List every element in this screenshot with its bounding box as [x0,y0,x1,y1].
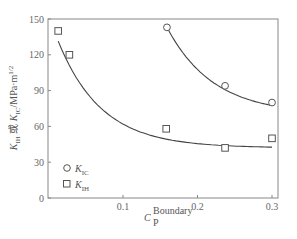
y-tick-label: 120 [29,49,44,60]
legend-item-kic: KIC [64,163,89,177]
y-tick-label: 30 [34,157,44,168]
square-marker-icon [163,125,170,132]
chart: 0306090120150 0.10.20.3 KIH 或 KIC/MPa·m1… [0,0,297,239]
svg-text:Boundary: Boundary [153,205,192,216]
legend-item-kih: KIH [64,179,90,193]
svg-text:C: C [144,212,151,223]
svg-text:KIC: KIC [74,163,89,177]
circle-marker-icon [64,165,71,172]
svg-text:P: P [153,217,159,228]
square-marker-icon [64,181,71,188]
x-tick-label: 0.2 [191,201,204,212]
y-axis-label: KIH 或 KIC/MPa·m1/2 [7,65,22,151]
square-marker-icon [222,145,229,152]
x-tick-label: 0.1 [117,201,130,212]
legend: KIC KIH [64,163,90,193]
square-marker-icon [55,28,62,35]
circle-marker-icon [222,82,229,89]
x-tick-label: 0.3 [266,201,279,212]
data-markers [55,24,276,151]
y-tick-label: 0 [39,193,44,204]
x-axis-label: C Boundary P [144,205,192,228]
y-tick-label: 90 [34,85,44,96]
square-marker-icon [269,135,276,142]
y-tick-label: 150 [29,14,44,25]
kic-fit-curve [167,27,272,105]
circle-marker-icon [269,99,276,106]
circle-marker-icon [164,24,171,31]
svg-text:KIH: KIH [74,179,89,193]
square-marker-icon [66,52,73,59]
y-tick-label: 60 [34,121,44,132]
